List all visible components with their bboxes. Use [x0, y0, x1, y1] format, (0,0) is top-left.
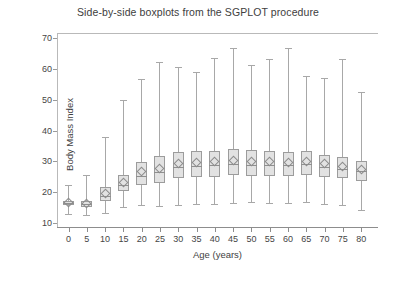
lower-whisker — [361, 181, 362, 211]
lower-whisker-cap — [339, 205, 346, 206]
lower-whisker — [159, 183, 160, 206]
lower-whisker — [269, 176, 270, 203]
upper-whisker — [141, 79, 142, 162]
y-axis-tick — [53, 192, 57, 193]
boxplot-box — [264, 33, 275, 228]
boxplot-box — [356, 33, 367, 228]
boxplot-box — [173, 33, 184, 228]
x-axis-tick-label: 70 — [320, 234, 330, 244]
x-axis-tick — [251, 228, 252, 232]
x-axis-tick — [233, 228, 234, 232]
lower-whisker-cap — [358, 210, 365, 211]
upper-whisker — [86, 175, 87, 201]
y-axis-tick-label: 60 — [42, 64, 52, 74]
y-axis-tick — [53, 223, 57, 224]
lower-whisker-cap — [285, 203, 292, 204]
lower-whisker — [178, 178, 179, 204]
x-axis-tick — [105, 228, 106, 232]
upper-whisker — [196, 72, 197, 151]
lower-whisker-cap — [175, 205, 182, 206]
x-axis-tick — [69, 228, 70, 232]
y-axis-tick — [53, 161, 57, 162]
y-axis-tick — [53, 100, 57, 101]
lower-whisker — [288, 176, 289, 203]
upper-whisker — [105, 137, 106, 187]
lower-whisker-cap — [230, 203, 237, 204]
x-axis-tick-label: 25 — [155, 234, 165, 244]
x-axis-tick-label: 65 — [301, 234, 311, 244]
upper-whisker — [178, 67, 179, 152]
lower-whisker-cap — [83, 215, 90, 216]
x-axis-tick-label: 35 — [192, 234, 202, 244]
upper-whisker-cap — [321, 78, 328, 79]
boxplot-box — [136, 33, 147, 228]
lower-whisker-cap — [156, 206, 163, 207]
upper-whisker-cap — [102, 137, 109, 138]
y-axis-tick-label: 20 — [42, 187, 52, 197]
upper-whisker — [324, 78, 325, 155]
lower-whisker — [324, 177, 325, 204]
upper-whisker-cap — [303, 76, 310, 77]
upper-whisker-cap — [120, 100, 127, 101]
x-axis-tick-label: 55 — [265, 234, 275, 244]
x-axis-tick — [142, 228, 143, 232]
y-axis-tick-label: 40 — [42, 126, 52, 136]
boxplot-figure: Side-by-side boxplots from the SGPLOT pr… — [0, 0, 396, 286]
x-axis-label: Age (years) — [57, 249, 378, 260]
y-axis-tick-label: 30 — [42, 156, 52, 166]
upper-whisker — [123, 100, 124, 176]
lower-whisker-cap — [248, 202, 255, 203]
lower-whisker — [214, 177, 215, 205]
y-axis-tick-label: 50 — [42, 95, 52, 105]
boxplot-box — [337, 33, 348, 228]
upper-whisker — [342, 59, 343, 158]
x-axis-tick-label: 45 — [228, 234, 238, 244]
x-axis-tick — [178, 228, 179, 232]
x-axis-tick — [87, 228, 88, 232]
x-axis-tick-label: 75 — [338, 234, 348, 244]
lower-whisker-cap — [211, 204, 218, 205]
x-axis-tick-label: 5 — [84, 234, 89, 244]
upper-whisker-cap — [193, 72, 200, 73]
lower-whisker — [105, 201, 106, 213]
upper-whisker — [159, 62, 160, 155]
lower-whisker — [342, 178, 343, 205]
upper-whisker-cap — [358, 92, 365, 93]
lower-whisker — [196, 177, 197, 203]
lower-whisker — [251, 176, 252, 203]
boxplot-box — [118, 33, 129, 228]
x-axis-tick — [306, 228, 307, 232]
plot-area: 10203040506070 0510152025303540455055606… — [57, 33, 378, 228]
upper-whisker-cap — [339, 59, 346, 60]
y-axis-tick-label: 10 — [42, 218, 52, 228]
lower-whisker-cap — [303, 202, 310, 203]
y-axis-tick — [53, 38, 57, 39]
lower-whisker-cap — [120, 207, 127, 208]
upper-whisker — [288, 48, 289, 152]
x-axis-tick-label: 40 — [210, 234, 220, 244]
y-axis-tick — [53, 69, 57, 70]
x-axis-tick — [270, 228, 271, 232]
x-axis-tick-label: 80 — [356, 234, 366, 244]
x-axis-tick-label: 20 — [137, 234, 147, 244]
upper-whisker — [306, 76, 307, 151]
boxplot-box — [154, 33, 165, 228]
upper-whisker-cap — [230, 48, 237, 49]
y-axis-tick — [53, 131, 57, 132]
y-axis-tick-label: 70 — [42, 33, 52, 43]
lower-whisker-cap — [193, 204, 200, 205]
upper-whisker — [251, 65, 252, 150]
chart-title: Side-by-side boxplots from the SGPLOT pr… — [0, 6, 396, 18]
boxplot-box — [81, 33, 92, 228]
upper-whisker-cap — [138, 79, 145, 80]
boxplot-box — [246, 33, 257, 228]
boxplot-box — [209, 33, 220, 228]
x-axis-tick — [325, 228, 326, 232]
boxplot-box — [228, 33, 239, 228]
upper-whisker — [233, 48, 234, 150]
boxplot-box — [301, 33, 312, 228]
upper-whisker — [214, 58, 215, 151]
y-axis-label: Body Mass Index — [64, 45, 75, 225]
x-axis-tick-label: 60 — [283, 234, 293, 244]
lower-whisker-cap — [138, 205, 145, 206]
